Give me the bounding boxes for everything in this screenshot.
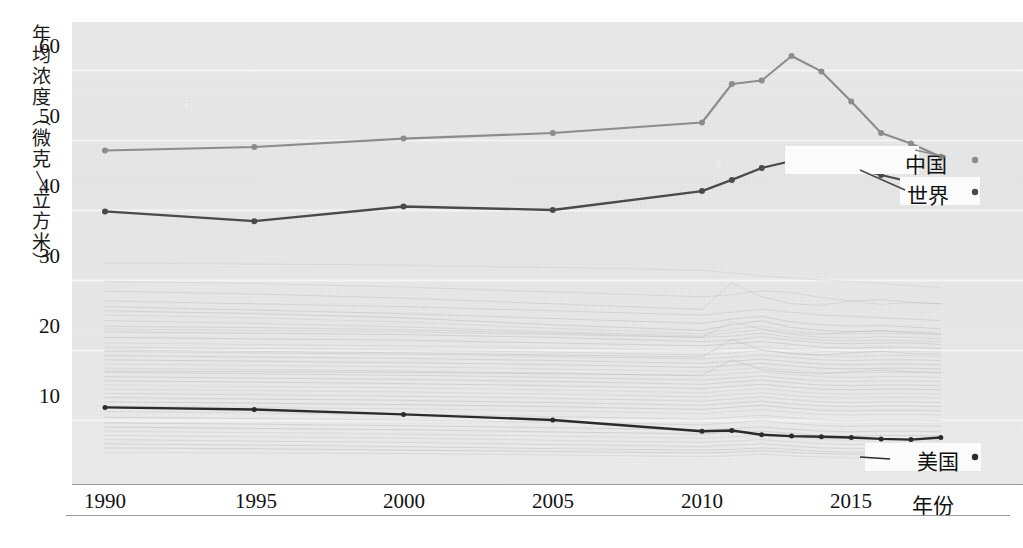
data-point-marker: [818, 68, 824, 74]
data-point-marker: [550, 418, 555, 423]
legend-label-usa: 美国: [917, 445, 959, 475]
data-point-marker: [729, 177, 735, 183]
legend-box-china: [785, 146, 919, 174]
background-country-line: [105, 351, 941, 360]
data-point-marker: [819, 434, 824, 439]
data-point-marker: [789, 53, 795, 59]
background-country-line: [105, 337, 941, 348]
data-point-marker: [729, 81, 735, 87]
data-point-marker: [729, 428, 734, 433]
background-country-line: [105, 440, 941, 449]
data-point-marker: [550, 207, 556, 213]
data-point-marker: [908, 437, 913, 442]
background-country-line: [105, 381, 941, 390]
background-country-line: [105, 427, 941, 436]
chart-figure: 年均浓度︵微克╲立方米︶ 60 50 40 30 20 10 1990 1995…: [0, 0, 1023, 548]
data-point-marker: [878, 130, 884, 136]
background-country-line: [105, 385, 941, 394]
data-point-marker: [879, 436, 884, 441]
data-point-marker: [102, 148, 108, 154]
data-point-marker: [699, 188, 705, 194]
highlighted-series-lines: [102, 53, 944, 442]
data-point-marker: [550, 130, 556, 136]
data-point-marker: [401, 412, 406, 417]
data-point-marker: [103, 405, 108, 410]
data-point-marker: [401, 136, 407, 142]
data-point-marker: [848, 99, 854, 105]
data-point-marker: [699, 120, 705, 126]
data-point-marker: [759, 432, 764, 437]
data-point-marker: [759, 165, 765, 171]
background-country-line: [105, 356, 941, 365]
data-point-marker: [252, 407, 257, 412]
background-country-line: [105, 406, 941, 415]
background-country-line: [105, 423, 941, 432]
data-point-marker: [789, 434, 794, 439]
data-point-marker: [849, 435, 854, 440]
data-point-marker: [938, 435, 943, 440]
data-point-marker: [251, 218, 257, 224]
background-country-line: [105, 377, 941, 386]
background-country-lines: [105, 263, 941, 458]
background-country-line: [105, 360, 941, 369]
data-point-marker: [401, 204, 407, 210]
data-point-marker: [251, 144, 257, 150]
background-country-line: [105, 393, 941, 402]
data-point-marker: [102, 208, 108, 214]
data-point-marker: [759, 78, 765, 84]
background-country-line: [105, 368, 941, 377]
legend-label-world: 世界: [907, 179, 949, 209]
background-country-line: [105, 389, 941, 398]
background-country-line: [105, 263, 941, 288]
legend-label-china: 中国: [905, 148, 947, 178]
data-point-marker: [700, 429, 705, 434]
background-country-line: [105, 398, 941, 407]
background-country-line: [105, 281, 941, 304]
